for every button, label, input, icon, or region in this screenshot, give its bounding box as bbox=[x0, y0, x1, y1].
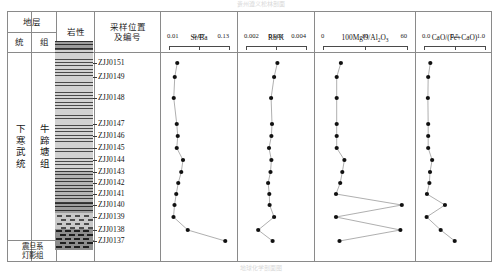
data-point bbox=[172, 203, 176, 207]
data-point bbox=[335, 96, 339, 100]
data-point bbox=[173, 75, 177, 79]
litho-dolomite-brick bbox=[83, 230, 89, 232]
axis-tick-label: 0.13 bbox=[217, 32, 229, 39]
data-point bbox=[275, 61, 279, 65]
sample-tick bbox=[93, 77, 97, 78]
litho-unit-dolomitic-shale bbox=[55, 203, 93, 213]
data-point bbox=[171, 215, 175, 219]
data-point bbox=[338, 181, 342, 185]
litho-dolomite-brick bbox=[74, 230, 80, 232]
sample-tick bbox=[93, 194, 97, 195]
litho-clast bbox=[66, 223, 71, 225]
litho-dolomite-brick bbox=[87, 234, 93, 236]
data-point bbox=[179, 170, 183, 174]
sample-tick bbox=[93, 230, 97, 231]
data-point bbox=[342, 158, 346, 162]
data-point bbox=[427, 181, 431, 185]
series-line bbox=[258, 63, 277, 241]
litho-dolomite-brick bbox=[65, 246, 71, 248]
sample-label: ZJJ0141 bbox=[98, 189, 125, 198]
litho-clast bbox=[79, 227, 84, 229]
plot-panel-Rb/K bbox=[237, 41, 313, 250]
litho-clast bbox=[84, 215, 89, 217]
data-point bbox=[175, 61, 179, 65]
sample-tick bbox=[93, 172, 97, 173]
litho-clast bbox=[84, 223, 89, 225]
sample-label: ZJJ0140 bbox=[98, 200, 125, 209]
sample-label: ZJJ0138 bbox=[98, 225, 125, 234]
data-point bbox=[334, 192, 338, 196]
axis-tick-label: 30 bbox=[362, 32, 369, 39]
data-point bbox=[268, 203, 272, 207]
sample-label: ZJJ0142 bbox=[98, 178, 125, 187]
data-point bbox=[269, 134, 273, 138]
data-point bbox=[337, 239, 341, 243]
litho-dolomite-brick bbox=[83, 246, 89, 248]
sample-tick bbox=[93, 160, 97, 161]
data-point bbox=[400, 203, 404, 207]
data-point bbox=[270, 122, 274, 126]
litho-dolomite-brick bbox=[74, 246, 80, 248]
litho-dolomite-brick bbox=[60, 242, 66, 244]
data-point bbox=[174, 192, 178, 196]
data-point bbox=[426, 134, 430, 138]
data-point bbox=[266, 181, 270, 185]
litho-dolomite-brick bbox=[60, 234, 66, 236]
litho-clast bbox=[57, 223, 62, 225]
data-point bbox=[268, 170, 272, 174]
sample-tick bbox=[93, 241, 97, 242]
data-point bbox=[269, 96, 273, 100]
sample-tick bbox=[93, 205, 97, 206]
litho-dolomite-brick bbox=[69, 242, 75, 244]
litho-clast bbox=[75, 215, 80, 217]
sample-tick bbox=[93, 183, 97, 184]
sample-label: ZJJ0151 bbox=[98, 58, 125, 67]
axis-tick-label: 0.004 bbox=[291, 32, 306, 39]
axis-tick-label: 0 bbox=[321, 32, 324, 39]
litho-clast bbox=[79, 219, 84, 221]
litho-clast bbox=[70, 227, 75, 229]
header-sample-position-line1: 采样位置 bbox=[110, 22, 146, 32]
data-point bbox=[272, 215, 276, 219]
litho-dolomite-brick bbox=[56, 246, 62, 248]
sample-tick bbox=[93, 217, 97, 218]
litho-clast bbox=[88, 227, 93, 229]
data-point bbox=[443, 203, 447, 207]
axis-tick-label: 0.5 bbox=[450, 32, 458, 39]
lithology-column bbox=[55, 41, 93, 250]
data-point bbox=[267, 146, 271, 150]
data-point bbox=[430, 158, 434, 162]
header-sample-position: 采样位置 及编号 bbox=[95, 12, 160, 52]
basal-formation-label: 震旦系 灯影组 bbox=[8, 240, 56, 261]
data-point bbox=[453, 239, 457, 243]
litho-clast bbox=[66, 215, 71, 217]
data-point bbox=[428, 170, 432, 174]
data-point bbox=[439, 228, 443, 232]
sample-label: ZJJ0144 bbox=[98, 155, 125, 164]
axis-tick-label: 0.0 bbox=[422, 32, 430, 39]
series-line bbox=[174, 63, 226, 241]
data-point bbox=[428, 61, 432, 65]
litho-dolomite-brick bbox=[83, 238, 89, 240]
data-point bbox=[267, 192, 271, 196]
data-point bbox=[176, 134, 180, 138]
data-point bbox=[175, 122, 179, 126]
data-point bbox=[339, 61, 343, 65]
header-series: 统 bbox=[8, 32, 31, 52]
data-point bbox=[426, 75, 430, 79]
litho-clast bbox=[57, 215, 62, 217]
litho-clast bbox=[61, 227, 66, 229]
data-point bbox=[335, 75, 339, 79]
litho-unit-black-shale-laminated bbox=[55, 41, 93, 49]
sample-tick bbox=[93, 124, 97, 125]
data-point bbox=[426, 122, 430, 126]
sample-label: ZJJ0146 bbox=[98, 131, 125, 140]
axis-tick-label: 60 bbox=[400, 32, 407, 39]
header-sample-position-line2: 及编号 bbox=[114, 32, 141, 42]
sample-label: ZJJ0145 bbox=[98, 143, 125, 152]
data-point bbox=[425, 215, 429, 219]
data-point bbox=[256, 228, 260, 232]
litho-unit-black-shale bbox=[55, 49, 93, 171]
data-point bbox=[334, 215, 338, 219]
bottom-caption-ghost: 地球化学剖面图 bbox=[196, 264, 326, 272]
